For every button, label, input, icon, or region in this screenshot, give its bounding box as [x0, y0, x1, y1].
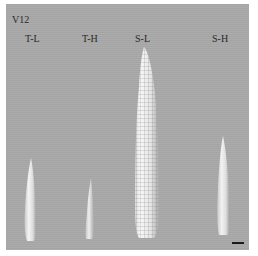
specimen-t-l — [22, 158, 40, 242]
specimen-label-t-l: T-L — [25, 34, 40, 44]
stage-label: V12 — [12, 15, 29, 25]
specimen-label-s-l: S-L — [135, 34, 150, 44]
scale-bar — [232, 242, 244, 244]
image-panel: V12 T-L T-H S-L S-H — [6, 4, 249, 250]
specimen-s-h — [216, 136, 232, 236]
specimen-label-t-h: T-H — [82, 34, 98, 44]
specimen-t-h — [84, 178, 96, 240]
specimen-label-s-h: S-H — [212, 34, 228, 44]
specimen-s-l — [133, 47, 163, 239]
